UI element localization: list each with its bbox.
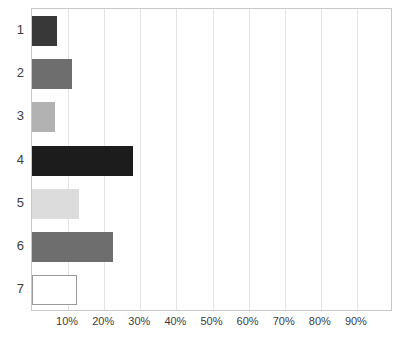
y-tick-label-6: 6: [0, 239, 24, 252]
x-tick-label-80%: 80%: [300, 316, 340, 327]
x-tick-label-30%: 30%: [119, 316, 159, 327]
bar-category-6[interactable]: [32, 232, 113, 262]
y-tick-label-2: 2: [0, 66, 24, 79]
x-tick-label-50%: 50%: [192, 316, 232, 327]
bar-category-7[interactable]: [32, 275, 77, 305]
bar-row: [32, 146, 392, 176]
x-tick-label-70%: 70%: [264, 316, 304, 327]
bar-row: [32, 59, 392, 89]
y-tick-label-5: 5: [0, 196, 24, 209]
bar-category-5[interactable]: [32, 189, 79, 219]
x-tick-label-10%: 10%: [47, 316, 87, 327]
bar-chart: 1234567 10%20%30%40%50%60%70%80%90%: [0, 0, 408, 340]
bar-row: [32, 232, 392, 262]
bar-category-4[interactable]: [32, 146, 133, 176]
plot-area: [31, 8, 392, 311]
x-tick-label-60%: 60%: [228, 316, 268, 327]
bar-row: [32, 189, 392, 219]
y-tick-label-3: 3: [0, 109, 24, 122]
bar-row: [32, 102, 392, 132]
y-tick-label-1: 1: [0, 23, 24, 36]
y-tick-label-7: 7: [0, 282, 24, 295]
bar-category-2[interactable]: [32, 59, 72, 89]
x-tick-label-40%: 40%: [155, 316, 195, 327]
y-tick-label-4: 4: [0, 153, 24, 166]
x-tick-label-20%: 20%: [83, 316, 123, 327]
bar-row: [32, 275, 392, 305]
bar-row: [32, 16, 392, 46]
bar-category-1[interactable]: [32, 16, 57, 46]
x-tick-label-90%: 90%: [336, 316, 376, 327]
bar-category-3[interactable]: [32, 102, 55, 132]
